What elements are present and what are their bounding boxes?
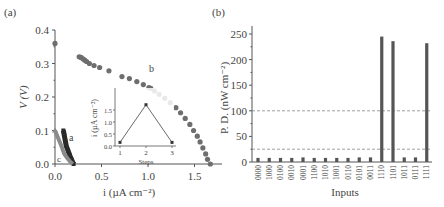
- inset-y-label: i (µA cm⁻²): [90, 99, 99, 137]
- x-axis-label-b: Inputs: [331, 186, 359, 198]
- bar: [324, 158, 327, 162]
- y-tick-label: 0: [242, 156, 248, 168]
- bar: [335, 158, 338, 162]
- x-tick-label: 1.5: [188, 170, 202, 182]
- bar: [279, 158, 282, 162]
- y-tick-label: 0.2: [35, 91, 49, 103]
- bar: [425, 43, 428, 162]
- panel-label-a: (a): [4, 6, 17, 19]
- y-tick-label: 0.4: [35, 24, 49, 36]
- y-tick-label: 50: [236, 130, 248, 142]
- x-tick-label: 0010: [287, 165, 296, 180]
- svg-text:0.5: 0.5: [104, 131, 112, 138]
- chart-b: (b)0501001502002500000100001000010000111…: [212, 6, 432, 198]
- x-tick-label: 0101: [355, 165, 364, 180]
- y-tick-label: 0.0: [35, 158, 49, 170]
- svg-text:2: 2: [144, 149, 148, 157]
- bar: [313, 158, 316, 162]
- y-tick-label: 150: [231, 79, 248, 91]
- x-tick-label: 0111: [411, 165, 420, 180]
- series-label-b: b: [149, 63, 154, 74]
- bar: [414, 157, 417, 162]
- bar: [391, 41, 394, 162]
- x-axis-label-a: i (µA cm⁻²): [103, 186, 155, 199]
- y-tick-label: 200: [231, 54, 248, 66]
- x-tick-label: 0001: [299, 165, 308, 180]
- series-label-a: a: [69, 132, 74, 143]
- x-tick-label: 1101: [389, 165, 398, 180]
- svg-text:1.5: 1.5: [104, 107, 112, 114]
- svg-text:1: 1: [118, 149, 122, 157]
- x-tick-label: 1111: [422, 165, 431, 179]
- bar: [346, 158, 349, 162]
- series-label-c: c: [57, 154, 61, 164]
- x-tick-label: 0011: [366, 165, 375, 180]
- x-tick-label: 0.0: [48, 170, 62, 182]
- y-tick-label: 100: [231, 105, 248, 117]
- x-tick-label: 0000: [254, 165, 263, 180]
- x-tick-label: 1011: [400, 165, 409, 180]
- y-tick-label: 0.3: [35, 58, 49, 70]
- x-tick-label: 1010: [321, 165, 330, 180]
- x-tick-label: 1000: [265, 165, 274, 180]
- bar: [380, 37, 383, 162]
- figure: (a)0.00.10.20.30.40.00.51.01.5i (µA cm⁻²…: [0, 0, 444, 207]
- x-tick-label: 0100: [276, 165, 285, 180]
- bar: [369, 157, 372, 162]
- y-tick-label: 250: [231, 28, 248, 40]
- bar: [290, 158, 293, 162]
- x-tick-label: 1100: [310, 165, 319, 180]
- x-tick-label: 0.5: [95, 170, 109, 182]
- bar: [358, 157, 361, 162]
- svg-text:1.0: 1.0: [104, 119, 112, 126]
- y-tick-label: 0.1: [35, 125, 49, 137]
- svg-text:0.0: 0.0: [104, 143, 112, 150]
- x-tick-label: 0110: [344, 165, 353, 180]
- y-axis-label-b: P. D. (nW cm⁻²): [218, 62, 231, 134]
- panel-label-b: (b): [212, 6, 225, 19]
- x-tick-label: 1001: [332, 165, 341, 180]
- bar: [268, 158, 271, 162]
- svg-text:3: 3: [170, 149, 174, 157]
- bar: [403, 157, 406, 162]
- figure-canvas: (a)0.00.10.20.30.40.00.51.01.5i (µA cm⁻²…: [0, 0, 444, 207]
- bar: [301, 157, 304, 162]
- inset-chart: 0.00.51.01.5123Stepsi (µA cm⁻²): [90, 88, 176, 166]
- chart-a: (a)0.00.10.20.30.40.00.51.01.5i (µA cm⁻²…: [4, 6, 222, 199]
- inset-x-label: Steps: [138, 158, 153, 166]
- y-axis-label-a: V (V): [17, 85, 30, 109]
- x-tick-label: 1110: [377, 165, 386, 180]
- bar: [256, 158, 259, 162]
- x-tick-label: 1.0: [141, 170, 155, 182]
